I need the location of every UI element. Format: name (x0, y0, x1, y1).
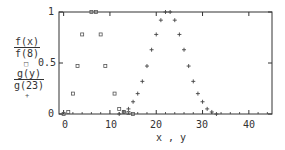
legend-g-ratio: g(y) g(23) (14, 68, 44, 91)
square-point (104, 65, 107, 68)
x-axis-label: x , y (156, 133, 186, 143)
y-tick-label-0: 0 (48, 109, 54, 119)
x-tick-label-40: 40 (243, 120, 255, 130)
x-tick-label-20: 20 (150, 120, 162, 130)
f-denominator: f(8) (14, 48, 40, 59)
square-point (76, 65, 79, 68)
square-point (81, 33, 84, 36)
plus-marker-icon: + (25, 93, 29, 100)
axes (59, 12, 272, 114)
g-numerator: g(y) (14, 68, 44, 80)
square-point (67, 110, 70, 113)
legend-f-ratio: f(x) f(8) (14, 36, 40, 59)
square-point (71, 92, 74, 95)
square-point (99, 33, 102, 36)
square-point (113, 92, 116, 95)
plot-frame (59, 12, 272, 114)
x-tick-label-10: 10 (105, 120, 117, 130)
f-numerator: f(x) (14, 36, 40, 48)
square-marker-icon: □ (24, 61, 28, 68)
x-tick-label-30: 30 (196, 120, 208, 130)
data-points (62, 10, 218, 116)
y-tick-label-1: 1 (48, 7, 54, 17)
x-tick-label-0: 0 (62, 120, 68, 130)
y-tick-label-0.5: 0.5 (38, 58, 56, 68)
g-denominator: g(23) (14, 80, 44, 91)
square-point (118, 107, 121, 110)
